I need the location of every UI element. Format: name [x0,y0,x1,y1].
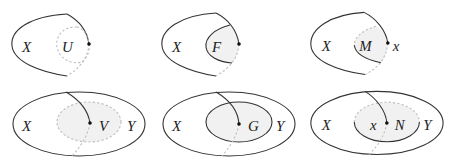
label-x: X [21,118,32,134]
label-x: X [321,38,332,54]
label-x: X [171,118,182,134]
label-n: N [394,117,406,133]
panel-closed-set-f: X F [150,0,300,81]
panel-open-set-u: X U [0,0,150,81]
outer-region-boundary [12,14,67,76]
panel-set-n-with-point: X x N Y [300,81,450,162]
label-y: Y [276,118,286,134]
panel-set-m-with-point: X M x [300,0,450,81]
boundary-point [237,42,241,46]
closed-set-f-figure: X F [150,0,300,81]
set-n-figure: X x N Y [300,81,450,162]
open-set-u-figure: X U [0,0,150,81]
label-x: X [21,39,32,55]
panel-open-set-v: X V Y [0,81,150,162]
label-m: M [358,38,372,54]
label-f: F [211,39,222,55]
boundary-point [88,121,92,125]
boundary-point [237,122,241,126]
open-set-v-figure: X V Y [0,81,150,162]
label-x: X [321,117,332,133]
label-point-x: x [392,38,400,54]
point-x [385,121,389,125]
label-x: X [171,39,182,55]
boundary-point [87,42,91,46]
label-point-x: x [369,117,377,133]
closed-set-g-figure: X G Y [150,81,300,162]
label-y: Y [127,118,137,134]
label-g: G [248,118,259,134]
label-u: U [62,39,74,55]
label-y: Y [423,117,433,133]
set-m-figure: X M x [300,0,450,81]
panel-closed-set-g: X G Y [150,81,300,162]
point-x [386,41,390,45]
